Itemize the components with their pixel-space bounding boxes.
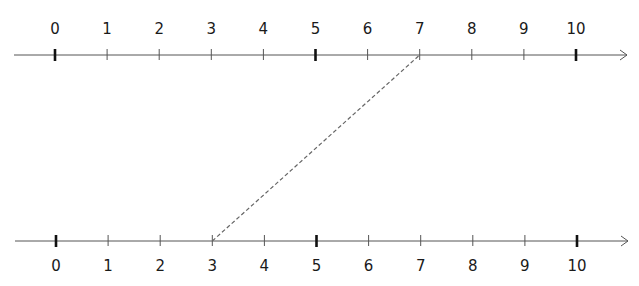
bottom-number-line	[15, 235, 628, 247]
top-line-label-10: 10	[566, 22, 585, 37]
bottom-line-label-8: 8	[468, 259, 478, 274]
top-line-label-4: 4	[259, 22, 269, 37]
top-line-label-6: 6	[363, 22, 373, 37]
diagram-canvas	[0, 0, 639, 286]
top-line-label-1: 1	[102, 22, 112, 37]
top-line-label-8: 8	[467, 22, 477, 37]
bottom-line-label-3: 3	[208, 259, 218, 274]
bottom-line-label-6: 6	[364, 259, 374, 274]
top-line-label-7: 7	[415, 22, 425, 37]
top-line-label-9: 9	[519, 22, 529, 37]
bottom-line-label-4: 4	[260, 259, 270, 274]
top-number-line	[14, 49, 627, 61]
double-number-line-diagram: 012345678910 012345678910	[0, 0, 639, 286]
bottom-line-label-1: 1	[103, 259, 113, 274]
bottom-line-label-7: 7	[416, 259, 426, 274]
top-line-label-0: 0	[50, 22, 60, 37]
top-line-label-5: 5	[311, 22, 321, 37]
bottom-line-label-0: 0	[51, 259, 61, 274]
dashed-connector-line	[212, 55, 419, 241]
bottom-line-label-10: 10	[567, 259, 586, 274]
bottom-line-label-5: 5	[312, 259, 322, 274]
bottom-line-label-2: 2	[155, 259, 165, 274]
bottom-line-label-9: 9	[520, 259, 530, 274]
top-line-label-2: 2	[154, 22, 164, 37]
top-line-label-3: 3	[207, 22, 217, 37]
